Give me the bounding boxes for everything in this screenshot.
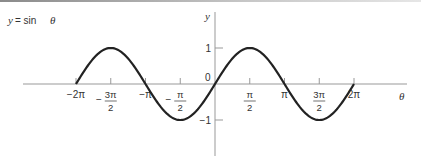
y-tick-label: −1 (200, 115, 212, 126)
y-tick-label: 1 (205, 43, 211, 54)
x-tick-denominator: 2 (247, 102, 252, 113)
y-axis-label: y (204, 10, 210, 22)
x-tick-label: π (281, 89, 288, 100)
x-tick-sign: − (96, 94, 102, 105)
x-tick-numerator: π (177, 89, 184, 100)
title-arg: θ (50, 14, 56, 26)
x-tick-numerator: π (246, 89, 253, 100)
x-tick-denominator: 2 (108, 102, 113, 113)
x-axis-label: θ (399, 90, 405, 102)
x-ticks: −2π−3π2−π−π2π2π3π22π (67, 78, 360, 113)
origin-label: 0 (205, 72, 211, 83)
x-tick-numerator: 3π (105, 89, 117, 100)
x-tick-denominator: 2 (317, 102, 322, 113)
sine-graph: y = sin θ θ y 0 −2π−3π2−π−π2π2π3π22π 1−1 (0, 0, 421, 160)
x-tick-numerator: 3π (313, 89, 325, 100)
title-var: y (7, 14, 13, 26)
x-tick-denominator: 2 (178, 102, 183, 113)
title-eq: = sin (15, 15, 36, 26)
x-tick-label: −2π (67, 89, 85, 100)
x-tick-sign: − (165, 94, 171, 105)
